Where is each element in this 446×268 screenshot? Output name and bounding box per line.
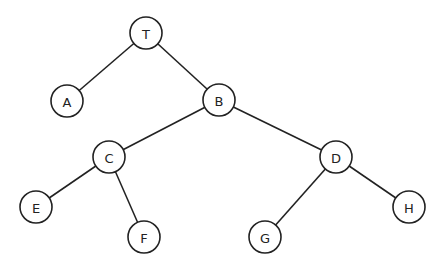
tree-node-g: G	[249, 221, 281, 253]
node-label: G	[260, 231, 270, 246]
node-label: C	[104, 151, 113, 166]
tree-node-e: E	[20, 191, 52, 223]
node-label: F	[140, 231, 147, 246]
node-label: A	[63, 95, 72, 110]
tree-node-f: F	[128, 221, 160, 253]
edges-layer	[36, 33, 409, 237]
tree-node-t: T	[130, 17, 162, 49]
tree-node-h: H	[393, 191, 425, 223]
tree-diagram: TABCDEFGH	[0, 0, 446, 268]
tree-node-d: D	[320, 141, 352, 173]
tree-node-a: A	[51, 85, 83, 117]
tree-node-c: C	[93, 141, 125, 173]
node-label: H	[404, 201, 414, 216]
tree-node-b: B	[203, 84, 235, 116]
nodes-layer: TABCDEFGH	[20, 17, 425, 253]
node-label: E	[32, 201, 40, 216]
edge-b-d	[219, 100, 336, 157]
edge-b-c	[109, 100, 219, 157]
node-label: T	[141, 27, 150, 42]
node-label: B	[215, 94, 224, 109]
node-label: D	[331, 151, 341, 166]
